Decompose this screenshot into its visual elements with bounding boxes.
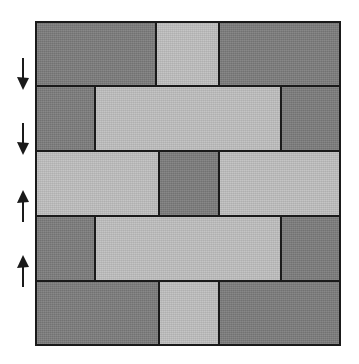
brick-light — [157, 23, 220, 87]
brick-dark — [160, 152, 220, 217]
brick-dark — [282, 217, 339, 282]
arrow-down-2-icon — [14, 122, 34, 156]
brick-dark — [37, 23, 157, 87]
brick-dark — [282, 87, 339, 152]
brick-light — [160, 282, 220, 344]
arrow-up-1-icon — [14, 189, 34, 223]
brick-light — [96, 217, 282, 282]
brick-row — [37, 87, 339, 152]
brick-light — [37, 152, 160, 217]
brick-row — [37, 282, 339, 344]
brick-light — [96, 87, 282, 152]
brick-light — [220, 152, 339, 217]
brick-bond-diagram — [0, 0, 359, 364]
brick-dark — [37, 217, 96, 282]
arrow-up-2-icon — [14, 254, 34, 288]
brick-dark — [220, 282, 339, 344]
brick-row — [37, 152, 339, 217]
brick-wall — [35, 21, 341, 346]
brick-row — [37, 217, 339, 282]
brick-row — [37, 23, 339, 87]
brick-dark — [37, 282, 160, 344]
brick-dark — [220, 23, 339, 87]
arrow-down-1-icon — [14, 57, 34, 91]
brick-dark — [37, 87, 96, 152]
